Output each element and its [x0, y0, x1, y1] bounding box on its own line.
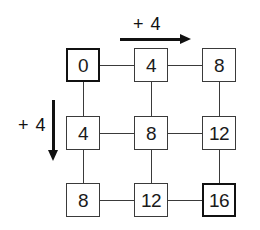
grid-cell-value: 12 — [141, 191, 161, 210]
connector-r2c1-r2c2 — [166, 200, 204, 201]
connector-r0c1-r1c1 — [151, 80, 152, 118]
grid-cell-r1c1[interactable]: 8 — [134, 116, 168, 150]
grid-cell-value: 4 — [146, 56, 156, 75]
down-arrow-icon-shaft — [52, 100, 55, 152]
grid-cell-value: 0 — [78, 56, 88, 75]
grid-cell-value: 8 — [214, 56, 224, 75]
connector-r1c2-r2c2 — [219, 148, 220, 185]
grid-cell-r1c0[interactable]: 4 — [66, 116, 100, 150]
grid-cell-r1c2[interactable]: 12 — [202, 116, 236, 150]
connector-r0c2-r1c2 — [219, 80, 220, 118]
grid-cell-value: 8 — [78, 191, 88, 210]
down-arrow-icon-head — [48, 150, 58, 161]
grid-cell-r0c0[interactable]: 0 — [66, 48, 100, 82]
connector-r1c1-r1c2 — [166, 133, 204, 134]
grid-cell-r0c1[interactable]: 4 — [134, 48, 168, 82]
connector-r0c1-r0c2 — [166, 65, 204, 66]
grid-cell-r0c2[interactable]: 8 — [202, 48, 236, 82]
grid-cell-r2c1[interactable]: 12 — [134, 183, 168, 217]
diagram-canvas: + 4 + 4 0 4 8 4 8 12 8 12 16 — [0, 0, 260, 230]
right-arrow-icon-shaft — [120, 38, 182, 41]
vertical-step-label: + 4 — [18, 115, 47, 136]
connector-r2c0-r2c1 — [98, 200, 136, 201]
grid-cell-r2c0[interactable]: 8 — [66, 183, 100, 217]
connector-r1c0-r1c1 — [98, 133, 136, 134]
grid-cell-value: 8 — [146, 124, 156, 143]
connector-r0c0-r1c0 — [83, 80, 84, 118]
grid-cell-value: 12 — [209, 124, 229, 143]
right-arrow-icon-head — [180, 34, 191, 44]
connector-r1c1-r2c1 — [151, 148, 152, 185]
grid-cell-r2c2[interactable]: 16 — [202, 183, 236, 217]
horizontal-step-label: + 4 — [133, 14, 162, 35]
grid-cell-value: 4 — [78, 124, 88, 143]
connector-r1c0-r2c0 — [83, 148, 84, 185]
grid-cell-value: 16 — [209, 191, 229, 210]
connector-r0c0-r0c1 — [98, 65, 136, 66]
